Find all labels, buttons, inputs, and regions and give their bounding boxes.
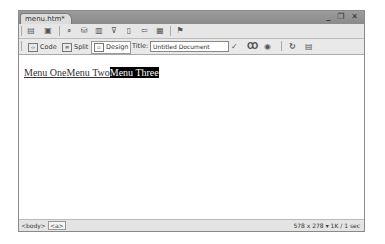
title-bar: menu.htm* _ ❐ ✕	[19, 11, 364, 24]
download-info: 1K / 1 sec	[331, 222, 360, 229]
link-menu-one[interactable]: Menu One	[24, 67, 67, 78]
common-icon[interactable]: ▤	[26, 26, 36, 35]
template-icon[interactable]: ▦	[155, 26, 165, 35]
restore-icon[interactable]: ❐	[337, 12, 346, 21]
link-menu-two[interactable]: Menu Two	[67, 67, 110, 78]
design-icon: ▫	[94, 43, 104, 52]
status-info: 578 x 278 ▾ 1K / 1 sec	[293, 220, 360, 231]
refresh-icon[interactable]: ↻	[289, 41, 296, 52]
validate-icon[interactable]: ✓	[231, 41, 238, 52]
layout-icon[interactable]: ▣	[43, 26, 53, 35]
separator	[59, 26, 60, 36]
code-icon: ‹›	[28, 43, 38, 52]
toolbar-grip[interactable]	[21, 26, 22, 36]
code-view-button[interactable]: ‹›Code	[25, 41, 60, 54]
status-bar: <body><a> 578 x 278 ▾ 1K / 1 sec	[19, 219, 364, 231]
minimize-icon[interactable]: _	[327, 12, 333, 21]
split-view-button[interactable]: ≡Split	[59, 41, 91, 54]
insert-toolbar: ▤ ▣ ⌕ ⛁ ▥ ⊽ ▯ ⇦ ▦ ⚑	[19, 24, 364, 39]
hyperlink-icon[interactable]: ⊽	[109, 26, 119, 35]
dropdown-icon[interactable]: ▾	[326, 222, 329, 229]
title-input[interactable]: Untitled Document	[150, 41, 229, 52]
window-size[interactable]: 578 x 278	[293, 222, 323, 229]
separator	[170, 26, 171, 36]
tag-body[interactable]: <body>	[21, 222, 46, 229]
email-icon[interactable]: ▯	[124, 26, 134, 35]
image-icon[interactable]: ⛁	[79, 26, 89, 35]
table-icon[interactable]: ⌕	[64, 26, 74, 35]
link-menu-three[interactable]: Menu Three	[110, 67, 159, 78]
title-label: Title:	[132, 41, 148, 52]
tag-a[interactable]: <a>	[48, 221, 66, 230]
widget-icon[interactable]: ⚑	[175, 26, 185, 35]
design-view[interactable]: Menu OneMenu TwoMenu Three	[19, 55, 364, 219]
view-options-icon[interactable]: ▤	[305, 41, 313, 52]
window-controls: _ ❐ ✕	[327, 12, 360, 21]
document-window: menu.htm* _ ❐ ✕ ▤ ▣ ⌕ ⛁ ▥ ⊽ ▯ ⇦ ▦ ⚑ ‹›Co…	[18, 10, 365, 232]
separator	[281, 41, 282, 51]
split-icon: ≡	[62, 43, 72, 52]
tag-selector: <body><a>	[21, 220, 68, 231]
browser-check-icon[interactable]: Ꝏ	[247, 41, 258, 52]
document-toolbar: ‹›Code ≡Split ▫Design Title: Untitled Do…	[19, 39, 364, 55]
design-view-button[interactable]: ▫Design	[91, 41, 131, 54]
anchor-icon[interactable]: ⇦	[139, 26, 149, 35]
media-icon[interactable]: ▥	[94, 26, 104, 35]
preview-icon[interactable]: ◉	[264, 41, 271, 52]
close-icon[interactable]: ✕	[351, 12, 360, 21]
toolbar-grip[interactable]	[21, 41, 22, 51]
menu-links: Menu OneMenu TwoMenu Three	[24, 67, 159, 78]
